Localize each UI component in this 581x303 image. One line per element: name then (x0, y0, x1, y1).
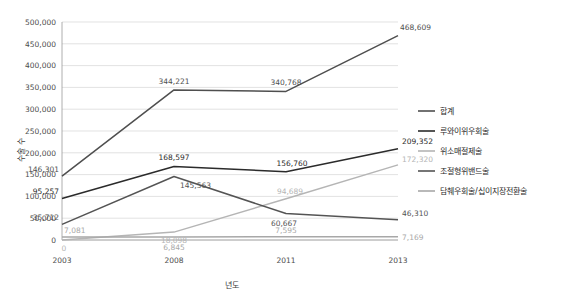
x-tick-label: 2008 (164, 256, 183, 265)
data-label: 94,689 (277, 187, 303, 196)
x-tick-label: 2003 (52, 256, 71, 265)
legend-label[interactable]: 합계 (440, 106, 454, 116)
legend-label[interactable]: 위소매절제술 (440, 146, 482, 156)
data-label: 156,760 (276, 159, 307, 168)
data-label: 0 (62, 244, 67, 253)
y-tick-label: 350,000 (25, 83, 56, 92)
data-label: 46,310 (402, 209, 428, 218)
chart-container: 050,000100,000150,000200,000250,000300,0… (0, 0, 581, 303)
y-tick-label: 300,000 (25, 105, 56, 114)
gridlines (62, 22, 398, 240)
data-label: 7,081 (64, 226, 86, 235)
x-tick-label: 2011 (276, 256, 295, 265)
line-chart: 050,000100,000150,000200,000250,000300,0… (0, 0, 581, 303)
data-label: 35,712 (33, 213, 59, 222)
data-label: 172,320 (402, 155, 433, 164)
y-axis-tick-labels: 050,000100,000150,000200,000250,000300,0… (25, 18, 56, 245)
series-line (62, 36, 398, 177)
data-label: 344,221 (158, 77, 189, 86)
y-tick-label: 450,000 (25, 40, 56, 49)
y-axis-title: 수술 수 (16, 138, 26, 162)
y-tick-label: 500,000 (25, 18, 56, 27)
legend-label[interactable]: 담췌우회술/십이지장전환술 (440, 186, 527, 196)
data-label: 168,597 (158, 153, 189, 162)
y-tick-label: 200,000 (25, 149, 56, 158)
series-line (62, 149, 398, 199)
data-label: 146,301 (28, 165, 59, 174)
data-label: 95,257 (33, 187, 59, 196)
x-tick-label: 2013 (388, 256, 407, 265)
legend: 합계루와이위우회술위소매절제술조절형위밴드술담췌우회술/십이지장전환술 (418, 106, 527, 196)
legend-label[interactable]: 조절형위밴드술 (440, 166, 489, 176)
y-tick-label: 0 (51, 236, 56, 245)
data-label: 209,352 (402, 137, 433, 146)
series-lines (62, 36, 398, 240)
x-axis-tick-labels: 2003200820112013 (52, 256, 407, 265)
y-tick-label: 250,000 (25, 127, 56, 136)
data-label: 7,595 (275, 226, 297, 235)
x-axis-title: 년도 (225, 280, 239, 290)
data-label: 145,563 (180, 181, 211, 190)
data-label: 7,169 (402, 233, 424, 242)
y-tick-label: 400,000 (25, 61, 56, 70)
data-label: 468,609 (400, 23, 431, 32)
data-label: 6,845 (163, 243, 185, 252)
legend-label[interactable]: 루와이위우회술 (440, 126, 489, 136)
data-label: 340,768 (270, 78, 301, 87)
